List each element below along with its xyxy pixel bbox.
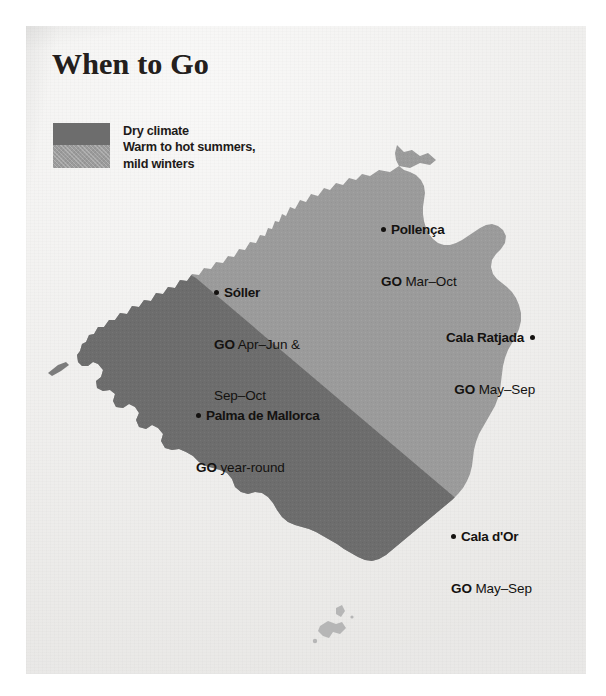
place-label-cala-dor[interactable]: Cala d'Or GO May–Sep — [451, 493, 532, 632]
legend-swatch-warm — [53, 145, 110, 168]
legend-label-dry: Dry climate — [123, 123, 255, 139]
place-name: Sóller — [214, 285, 300, 301]
place-marker-dot — [381, 227, 386, 232]
legend-label-warm-2: mild winters — [123, 156, 255, 172]
page-title: When to Go — [52, 47, 209, 81]
place-name: Pollença — [381, 222, 457, 238]
place-go: GO year-round — [196, 460, 320, 476]
legend-label-warm-1: Warm to hot summers, — [123, 139, 255, 155]
place-name: Palma de Mallorca — [196, 408, 320, 424]
place-label-palma-de-mallorca[interactable]: Palma de Mallorca GO year-round — [196, 372, 320, 511]
legend: Dry climate Warm to hot summers, mild wi… — [53, 123, 264, 172]
place-label-cala-ratjada[interactable]: Cala Ratjada GO May–Sep — [446, 294, 535, 433]
islets-cabrera — [313, 605, 354, 643]
islet-sa-dragonera — [48, 362, 69, 376]
place-name: Cala Ratjada — [446, 330, 535, 346]
place-go: GO May–Sep — [446, 382, 535, 398]
legend-swatch — [53, 123, 110, 168]
place-name: Cala d'Or — [451, 529, 532, 545]
place-go: GO Mar–Oct — [381, 274, 457, 290]
place-go: GO May–Sep — [451, 581, 532, 597]
place-marker-dot — [214, 290, 219, 295]
page-root: When to Go Dry climate Warm to hot summe… — [0, 0, 606, 696]
place-marker-dot — [196, 413, 201, 418]
place-marker-dot — [530, 335, 535, 340]
legend-swatch-dry — [53, 123, 110, 145]
place-marker-dot — [451, 534, 456, 539]
legend-labels: Dry climate Warm to hot summers, mild wi… — [123, 123, 255, 172]
place-go: GO Apr–Jun & — [214, 337, 300, 353]
